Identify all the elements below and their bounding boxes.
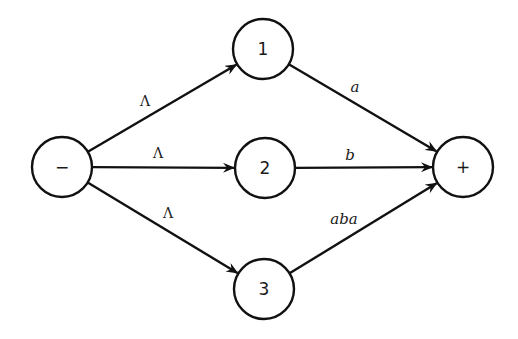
edge-start-to-2 [92, 167, 234, 168]
edge-label-start-to-1: Λ [139, 93, 151, 109]
edge-label-start-to-2: Λ [152, 145, 164, 161]
state-node-2: 2 [235, 138, 295, 198]
edge-label-start-to-3: Λ [162, 205, 174, 221]
state-node-final: + [433, 137, 493, 197]
state-node-start: − [32, 137, 92, 197]
edge-start-to-3 [88, 183, 238, 273]
edge-label-3-to-final: aba [330, 210, 358, 228]
state-label: − [55, 157, 69, 177]
state-node-3: 3 [234, 259, 294, 319]
nodes-group: −123+ [32, 19, 493, 319]
state-node-1: 1 [233, 19, 293, 79]
edge-3-to-final [290, 183, 437, 273]
edge-label-2-to-final: b [345, 146, 355, 164]
edge-start-to-1 [88, 65, 236, 152]
edge-1-to-final [289, 64, 436, 151]
state-label: 2 [260, 158, 271, 178]
state-label: + [456, 157, 470, 177]
edge-2-to-final [295, 167, 432, 168]
edge-label-1-to-final: a [351, 78, 360, 96]
state-label: 3 [259, 279, 270, 299]
automaton-diagram: ΛΛΛababa −123+ [0, 0, 518, 339]
state-label: 1 [258, 39, 269, 59]
